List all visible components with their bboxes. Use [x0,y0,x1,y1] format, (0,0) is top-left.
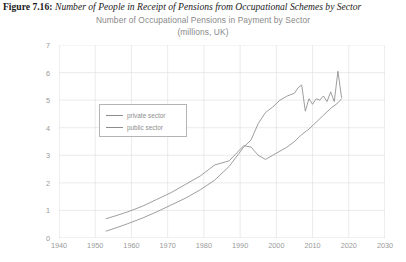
figure-caption: Figure 7.16: Number of People in Receipt… [3,1,403,14]
x-tick-label: 1940 [51,241,67,250]
legend-item-public-sector: public sector [106,122,163,132]
series-line-private-sector [106,71,341,231]
figure-page: Figure 7.16: Number of People in Receipt… [0,0,406,262]
figure-caption-text: Number of People in Receipt of Pensions … [55,1,361,12]
chart: Number of Occupational Pensions in Payme… [0,15,406,262]
legend-item-private-sector: private sector [106,110,165,120]
chart-subtitle: (millions, UK) [0,27,406,37]
x-tick-label: 2030 [377,241,393,250]
x-tick-label: 2000 [268,241,284,250]
y-tick-label: 3 [46,151,50,160]
figure-caption-separator: : [49,1,52,12]
y-tick-label: 2 [46,178,50,187]
grid-lines [59,45,385,238]
x-tick-label: 2010 [304,241,320,250]
y-tick-label: 4 [46,123,50,132]
legend-line-icon [106,127,123,128]
y-tick-label: 1 [46,206,50,215]
legend-line-icon [106,115,123,116]
x-axis-tick-labels: 1940195019601970198019902000201020202030 [0,241,406,255]
series-lines [106,71,341,231]
y-tick-label: 7 [46,41,50,50]
x-tick-label: 2020 [341,241,357,250]
x-tick-label: 1970 [160,241,176,250]
x-tick-label: 1950 [87,241,103,250]
x-tick-label: 1980 [196,241,212,250]
legend-label: public sector [127,124,163,131]
plot-area [59,45,385,238]
legend-label: private sector [127,112,165,119]
x-tick-label: 1960 [123,241,139,250]
y-axis-tick-labels: 01234567 [0,45,55,238]
y-tick-label: 6 [46,68,50,77]
x-tick-label: 1990 [232,241,248,250]
figure-label: Figure 7.16 [3,1,49,12]
y-tick-label: 5 [46,96,50,105]
chart-title: Number of Occupational Pensions in Payme… [0,15,406,25]
chart-legend: private sector public sector [99,104,187,137]
plot-svg [59,45,385,238]
